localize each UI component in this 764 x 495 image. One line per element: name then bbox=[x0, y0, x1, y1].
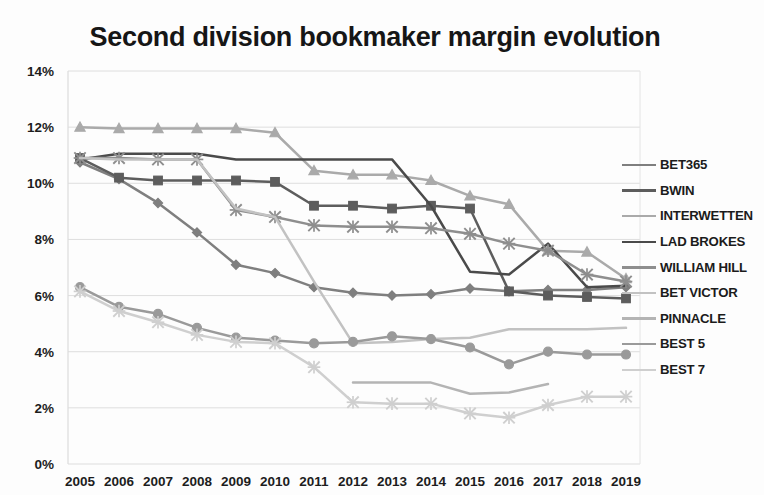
svg-text:0%: 0% bbox=[34, 457, 54, 472]
svg-text:2015: 2015 bbox=[455, 474, 486, 489]
chart-root: Second division bookmaker margin evoluti… bbox=[0, 0, 764, 495]
legend-item-label: LAD BROKES bbox=[660, 234, 745, 249]
svg-text:2010: 2010 bbox=[260, 474, 290, 489]
legend-item-label: INTERWETTEN bbox=[660, 208, 753, 223]
legend-item-label: BET365 bbox=[660, 157, 707, 172]
y-axis-ticks: 0%2%4%6%8%10%12%14% bbox=[27, 64, 54, 472]
svg-text:2%: 2% bbox=[34, 401, 54, 416]
svg-text:2008: 2008 bbox=[182, 474, 213, 489]
svg-text:2014: 2014 bbox=[416, 474, 447, 489]
svg-text:8%: 8% bbox=[34, 232, 54, 247]
legend-item-best-5[interactable]: BEST 5 bbox=[622, 331, 762, 357]
svg-text:2009: 2009 bbox=[221, 474, 251, 489]
legend-item-best-7[interactable]: BEST 7 bbox=[622, 357, 762, 383]
legend-swatch-diamond-icon bbox=[622, 158, 656, 172]
svg-text:2012: 2012 bbox=[338, 474, 368, 489]
legend-item-pinnacle[interactable]: PINNACLE bbox=[622, 306, 762, 332]
legend-swatch-none-icon bbox=[622, 286, 656, 300]
svg-text:2016: 2016 bbox=[494, 474, 525, 489]
legend-swatch-square-icon bbox=[622, 183, 656, 197]
legend-item-label: BEST 5 bbox=[660, 336, 705, 351]
svg-text:2011: 2011 bbox=[299, 474, 329, 489]
series-line bbox=[353, 383, 548, 394]
legend-item-label: BET VICTOR bbox=[660, 285, 738, 300]
svg-text:2006: 2006 bbox=[104, 474, 135, 489]
svg-text:2018: 2018 bbox=[572, 474, 603, 489]
svg-text:2017: 2017 bbox=[533, 474, 563, 489]
legend-swatch-x-icon bbox=[622, 363, 656, 377]
legend-item-lad-brokes[interactable]: LAD BROKES bbox=[622, 229, 762, 255]
legend-swatch-x-icon bbox=[622, 260, 656, 274]
legend-item-bet-victor[interactable]: BET VICTOR bbox=[622, 280, 762, 306]
legend-item-bet365[interactable]: BET365 bbox=[622, 152, 762, 178]
legend-item-bwin[interactable]: BWIN bbox=[622, 178, 762, 204]
chart-legend: BET365BWININTERWETTENLAD BROKESWILLIAM H… bbox=[622, 152, 762, 382]
legend-item-interwetten[interactable]: INTERWETTEN bbox=[622, 203, 762, 229]
legend-item-label: BEST 7 bbox=[660, 362, 705, 377]
svg-text:12%: 12% bbox=[27, 120, 54, 135]
svg-text:6%: 6% bbox=[34, 289, 54, 304]
legend-swatch-circle-icon bbox=[622, 337, 656, 351]
svg-text:2013: 2013 bbox=[377, 474, 408, 489]
svg-text:2005: 2005 bbox=[65, 474, 96, 489]
x-axis-ticks: 2005200620072008200920102011201220132014… bbox=[65, 474, 641, 489]
legend-swatch-none-icon bbox=[622, 311, 656, 325]
svg-text:10%: 10% bbox=[27, 176, 54, 191]
legend-item-label: WILLIAM HILL bbox=[660, 260, 747, 275]
legend-item-label: PINNACLE bbox=[660, 311, 726, 326]
svg-text:2007: 2007 bbox=[143, 474, 173, 489]
legend-item-label: BWIN bbox=[660, 183, 694, 198]
legend-swatch-none-icon bbox=[622, 235, 656, 249]
svg-text:14%: 14% bbox=[27, 64, 54, 79]
svg-text:2019: 2019 bbox=[611, 474, 641, 489]
legend-item-william-hill[interactable]: WILLIAM HILL bbox=[622, 254, 762, 280]
svg-text:4%: 4% bbox=[34, 345, 54, 360]
legend-swatch-triangle-icon bbox=[622, 209, 656, 223]
